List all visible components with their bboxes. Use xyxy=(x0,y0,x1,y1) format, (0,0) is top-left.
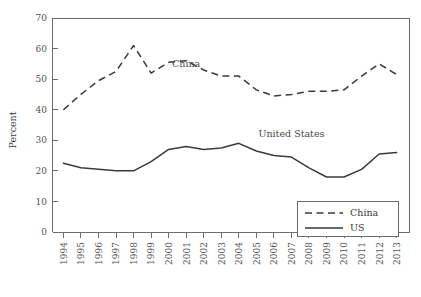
y-tick-label: 10 xyxy=(36,197,48,207)
y-tick-label: 60 xyxy=(36,44,48,54)
x-tick-label: 2001 xyxy=(182,242,192,265)
y-axis-title-group: Percent xyxy=(7,111,18,148)
x-tick-label: 2013 xyxy=(392,242,402,265)
y-tick-label: 70 xyxy=(36,13,48,23)
x-axis: 1994199519961997199819992000200120022003… xyxy=(59,233,402,265)
x-tick-label: 1994 xyxy=(59,242,69,265)
legend: ChinaUS xyxy=(298,202,399,237)
x-tick-label: 1998 xyxy=(129,242,139,265)
x-tick-label: 2012 xyxy=(375,242,385,265)
x-tick-label: 2002 xyxy=(199,242,209,265)
x-tick-label: 1996 xyxy=(94,242,104,265)
x-tick-label: 2000 xyxy=(164,242,174,265)
x-tick-label: 2010 xyxy=(339,242,349,265)
y-tick-label: 30 xyxy=(36,135,48,145)
x-tick-label: 2009 xyxy=(322,242,332,265)
x-tick-label: 2007 xyxy=(287,242,297,265)
annotation-china: China xyxy=(172,58,201,69)
x-tick-label: 2003 xyxy=(217,242,227,265)
x-tick-label: 2004 xyxy=(234,242,244,265)
line-chart: Percent 010203040506070 1994199519961997… xyxy=(0,0,421,297)
x-tick-label: 1999 xyxy=(146,242,156,265)
y-axis: 010203040506070 xyxy=(36,13,58,237)
x-tick-label: 1995 xyxy=(76,242,86,265)
legend-label-us: US xyxy=(350,222,365,233)
chart-figure: Percent 010203040506070 1994199519961997… xyxy=(0,0,421,297)
y-tick-label: 50 xyxy=(36,74,48,84)
data-series-group xyxy=(63,46,396,177)
x-tick-label: 2006 xyxy=(269,242,279,265)
x-tick-label: 2005 xyxy=(252,242,262,265)
annotation-united-states: United States xyxy=(258,128,324,139)
y-tick-label: 0 xyxy=(41,227,47,237)
series-line-china xyxy=(63,46,396,110)
x-tick-label: 2011 xyxy=(357,242,367,265)
y-tick-label: 20 xyxy=(36,166,48,176)
series-annotations: ChinaUnited States xyxy=(172,58,324,139)
legend-box xyxy=(298,202,399,237)
y-axis-title: Percent xyxy=(7,111,18,148)
series-line-us xyxy=(63,143,396,177)
x-tick-label: 2008 xyxy=(304,242,314,265)
y-tick-label: 40 xyxy=(36,105,48,115)
x-tick-label: 1997 xyxy=(111,242,121,265)
legend-label-china: China xyxy=(350,207,379,218)
